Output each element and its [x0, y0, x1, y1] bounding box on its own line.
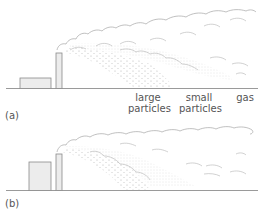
factory-building	[20, 78, 51, 89]
smokestack	[56, 154, 62, 191]
label-small-line1: small	[179, 92, 219, 103]
panel-b-plume-downwash: (b)	[0, 124, 262, 213]
label-gas: gas	[233, 92, 257, 103]
label-large-line1: large	[128, 92, 168, 103]
label-large-line2: particles	[128, 103, 168, 114]
panel-a-plume-separation: large particles small particles gas (a)	[0, 0, 262, 124]
label-small-particles: small particles	[179, 92, 219, 114]
panel-tag-a: (a)	[5, 110, 19, 121]
smokestack	[56, 53, 62, 89]
panel-tag-b: (b)	[5, 198, 19, 209]
label-large-particles: large particles	[128, 92, 168, 114]
label-small-line2: particles	[179, 103, 219, 114]
factory-building	[29, 162, 51, 191]
panel-b-drawing	[0, 124, 262, 213]
